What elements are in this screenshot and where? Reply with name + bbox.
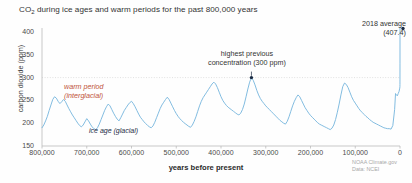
annotation-2018-average-line2: (407.4) [318, 28, 406, 37]
annotation-warm-period: warm period (interglacial) [64, 82, 104, 100]
annotation-2018-average: 2018 average (407.4) [318, 19, 406, 37]
annotation-highest-previous: highest previous concentration (300 ppm) [182, 49, 312, 67]
annotation-ice-age: ice age (glacial) [89, 126, 138, 135]
co2-ice-core-chart: CO2 during ice ages and warm periods for… [0, 0, 412, 183]
source-credit: NOAA Climate.gov Data: NCEI [352, 159, 397, 173]
annotation-warm-period-line1: warm period [64, 82, 104, 91]
co2-data-line [42, 29, 400, 130]
annotation-highest-previous-line2: concentration (300 ppm) [182, 58, 312, 67]
annotation-highest-previous-line1: highest previous [182, 49, 312, 58]
x-axis-label: years before present [0, 163, 412, 172]
annotation-warm-period-line2: (interglacial) [64, 91, 104, 100]
source-credit-line2: Data: NCEI [352, 166, 397, 173]
annotation-2018-average-line1: 2018 average [318, 19, 406, 28]
marker-highest-previous [250, 76, 253, 79]
source-credit-line1: NOAA Climate.gov [352, 159, 397, 166]
